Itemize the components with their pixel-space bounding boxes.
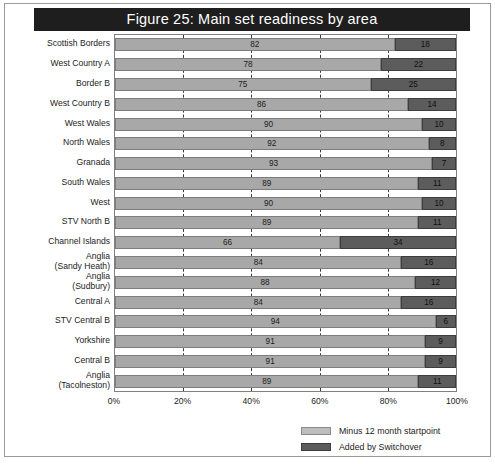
- category-label: Anglia (Sandy Heath): [5, 252, 110, 271]
- bar-segment-startpoint: 89: [115, 216, 418, 229]
- bar-row: 6634: [115, 236, 456, 249]
- bar-segment-switchover: 11: [418, 177, 456, 190]
- legend-label: Minus 12 month startpoint: [339, 426, 440, 436]
- bar-value-label: 90: [264, 199, 273, 208]
- x-tick-label: 40%: [243, 396, 260, 406]
- bar-value-label: 88: [260, 278, 269, 287]
- bar-row: 919: [115, 335, 456, 348]
- bar-segment-switchover: 11: [418, 216, 456, 229]
- category-label: Channel Islands: [5, 237, 110, 247]
- bar-value-label: 11: [433, 377, 442, 386]
- bar-segment-switchover: 16: [401, 296, 456, 309]
- bar-row: 8416: [115, 256, 456, 269]
- category-label: Central A: [5, 297, 110, 307]
- bar-segment-switchover: 6: [436, 315, 456, 328]
- bar-segment-startpoint: 90: [115, 118, 422, 131]
- bar-segment-startpoint: 84: [115, 296, 401, 309]
- bar-segment-switchover: 10: [422, 197, 456, 210]
- bar-value-label: 82: [250, 40, 259, 49]
- category-label: Granada: [5, 158, 110, 168]
- bar-value-label: 89: [262, 377, 271, 386]
- bar-value-label: 75: [238, 80, 247, 89]
- bar-segment-startpoint: 84: [115, 256, 401, 269]
- bar-row: 7822: [115, 58, 456, 71]
- bar-segment-startpoint: 90: [115, 197, 422, 210]
- bar-segment-switchover: 34: [340, 236, 456, 249]
- bar-row: 7525: [115, 78, 456, 91]
- bar-segment-startpoint: 91: [115, 335, 425, 348]
- plot-inner: 8218782275258614901092893789119010891166…: [115, 35, 456, 391]
- bar-segment-startpoint: 78: [115, 58, 381, 71]
- bar-value-label: 22: [414, 60, 423, 69]
- legend-swatch-icon: [301, 427, 331, 435]
- x-axis-tick-labels: 0%20%40%60%80%100%: [114, 396, 457, 410]
- bar-value-label: 9: [438, 337, 443, 346]
- plot-area: 8218782275258614901092893789119010891166…: [114, 34, 457, 392]
- bar-segment-startpoint: 94: [115, 315, 436, 328]
- bar-segment-startpoint: 89: [115, 375, 418, 388]
- x-tick-label: 100%: [446, 396, 468, 406]
- bar-segment-startpoint: 93: [115, 157, 432, 170]
- bar-segment-startpoint: 86: [115, 98, 408, 111]
- bar-row: 8416: [115, 296, 456, 309]
- bar-segment-switchover: 14: [408, 98, 456, 111]
- bar-value-label: 86: [257, 100, 266, 109]
- category-label: Anglia (Tacolneston): [5, 371, 110, 390]
- category-label: Anglia (Sudbury): [5, 272, 110, 291]
- bar-value-label: 91: [266, 357, 275, 366]
- bar-value-label: 84: [254, 258, 263, 267]
- bar-segment-switchover: 22: [381, 58, 456, 71]
- bar-value-label: 89: [262, 218, 271, 227]
- bar-row: 928: [115, 137, 456, 150]
- bar-value-label: 10: [434, 199, 443, 208]
- bar-segment-startpoint: 88: [115, 276, 415, 289]
- bar-value-label: 66: [223, 238, 232, 247]
- bar-row: 8911: [115, 216, 456, 229]
- legend-label: Added by Switchover: [339, 442, 422, 452]
- bar-value-label: 34: [393, 238, 402, 247]
- bar-segment-startpoint: 91: [115, 355, 425, 368]
- bar-value-label: 10: [434, 120, 443, 129]
- bar-value-label: 7: [442, 159, 447, 168]
- bar-row: 9010: [115, 197, 456, 210]
- bar-segment-switchover: 8: [429, 137, 456, 150]
- bar-value-label: 11: [433, 179, 442, 188]
- category-label: West: [5, 198, 110, 208]
- bar-segment-switchover: 7: [432, 157, 456, 170]
- bar-segment-startpoint: 66: [115, 236, 340, 249]
- bar-segment-switchover: 18: [395, 38, 456, 51]
- category-axis-labels: Scottish BordersWest Country ABorder BWe…: [5, 34, 110, 392]
- category-label: Border B: [5, 79, 110, 89]
- bar-row: 919: [115, 355, 456, 368]
- bar-value-label: 16: [424, 258, 433, 267]
- figure-container: Figure 25: Main set readiness by area Sc…: [4, 3, 491, 457]
- x-tick-label: 20%: [174, 396, 191, 406]
- bar-segment-startpoint: 89: [115, 177, 418, 190]
- bar-row: 8614: [115, 98, 456, 111]
- page-title: Figure 25: Main set readiness by area: [127, 12, 378, 27]
- bar-segment-startpoint: 92: [115, 137, 429, 150]
- bar-segment-switchover: 25: [371, 78, 456, 91]
- bar-value-label: 9: [438, 357, 443, 366]
- figure-title-bar: Figure 25: Main set readiness by area: [34, 8, 470, 31]
- category-label: Yorkshire: [5, 336, 110, 346]
- bar-value-label: 12: [431, 278, 440, 287]
- legend-item: Added by Switchover: [301, 440, 491, 454]
- bar-value-label: 90: [264, 120, 273, 129]
- bar-value-label: 18: [421, 40, 430, 49]
- bar-row: 8812: [115, 276, 456, 289]
- bar-value-label: 8: [440, 139, 445, 148]
- category-label: STV Central B: [5, 316, 110, 326]
- bar-value-label: 91: [266, 337, 275, 346]
- x-tick-label: 0%: [108, 396, 120, 406]
- legend-item: Minus 12 month startpoint: [301, 424, 491, 438]
- bar-value-label: 25: [409, 80, 418, 89]
- category-label: STV North B: [5, 217, 110, 227]
- bar-value-label: 94: [271, 317, 280, 326]
- bar-value-label: 78: [243, 60, 252, 69]
- category-label: North Wales: [5, 138, 110, 148]
- bar-segment-switchover: 10: [422, 118, 456, 131]
- bar-value-label: 89: [262, 179, 271, 188]
- x-tick-label: 80%: [380, 396, 397, 406]
- bar-segment-startpoint: 82: [115, 38, 395, 51]
